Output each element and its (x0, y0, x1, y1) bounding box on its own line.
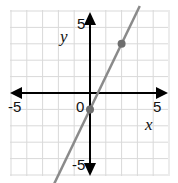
y-axis-up-arrow-icon (84, 12, 96, 25)
origin-label: 0 (76, 98, 84, 115)
x-axis-label: x (144, 115, 153, 134)
coordinate-plane: -5 5 5 -5 0 y x (0, 0, 178, 183)
y-axis-label: y (58, 27, 68, 46)
y-axis-down-arrow-icon (84, 163, 96, 176)
data-point (118, 40, 126, 48)
x-max-tick-label: 5 (153, 98, 161, 115)
y-min-tick-label: -5 (72, 156, 85, 173)
data-point (86, 105, 94, 113)
x-min-tick-label: -5 (8, 98, 21, 115)
y-max-tick-label: 5 (77, 15, 85, 32)
